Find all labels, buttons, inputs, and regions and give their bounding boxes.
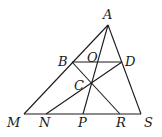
label-n: N (38, 115, 51, 130)
segments (24, 25, 141, 114)
label-d: D (124, 54, 136, 69)
label-a: A (102, 7, 112, 22)
label-m: M (6, 115, 21, 130)
label-s: S (144, 115, 153, 130)
label-o: O (87, 50, 98, 65)
labels: A B O D C M N P R S (6, 7, 153, 130)
segment-dn (46, 62, 122, 114)
label-b: B (57, 54, 68, 69)
label-r: R (115, 115, 126, 130)
label-p: P (77, 115, 87, 130)
geometry-diagram: A B O D C M N P R S (0, 0, 162, 137)
segment-as (108, 25, 141, 114)
label-c: C (74, 78, 84, 93)
